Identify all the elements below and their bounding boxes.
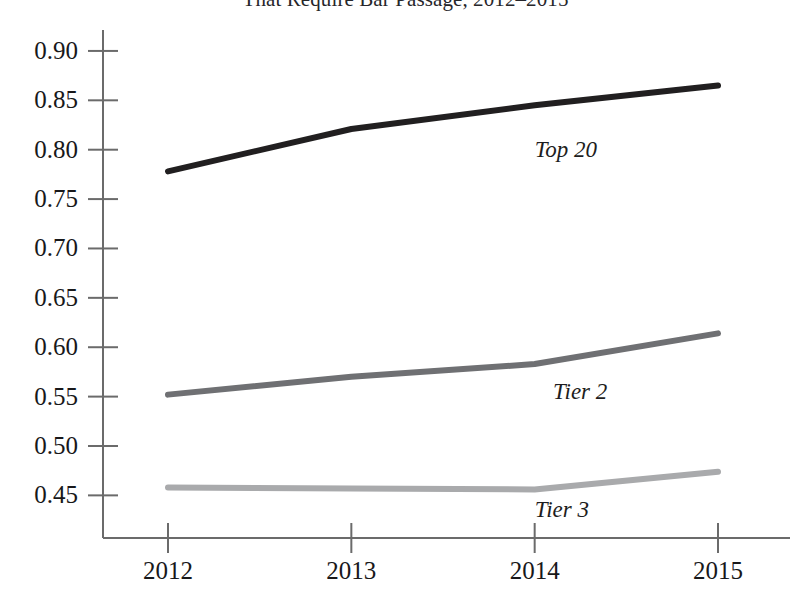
axis-lines [103, 30, 790, 538]
x-tick-label-1: 2013 [296, 558, 406, 583]
plot-svg [0, 0, 811, 603]
line-chart: That Require Bar Passage, 2012–2015 0.45… [0, 0, 811, 603]
series-lines [168, 86, 718, 490]
series-label-tier-2: Tier 2 [553, 380, 607, 403]
series-label-top-20: Top 20 [535, 138, 597, 161]
y-tick-label-1: 0.50 [4, 433, 78, 458]
series-line-2 [168, 472, 718, 490]
y-tick-label-5: 0.70 [4, 235, 78, 260]
y-tick-label-2: 0.55 [4, 384, 78, 409]
y-tick-label-3: 0.60 [4, 334, 78, 359]
y-tick-label-8: 0.85 [4, 87, 78, 112]
y-tick-label-6: 0.75 [4, 186, 78, 211]
plot-area: 0.450.500.550.600.650.700.750.800.850.90… [0, 0, 811, 603]
y-tick-label-9: 0.90 [4, 38, 78, 63]
x-tick-label-3: 2015 [663, 558, 773, 583]
series-line-1 [168, 333, 718, 394]
x-tick-label-2: 2014 [480, 558, 590, 583]
y-tick-label-0: 0.45 [4, 482, 78, 507]
axis-ticks [88, 51, 718, 553]
x-tick-label-0: 2012 [113, 558, 223, 583]
y-tick-label-4: 0.65 [4, 285, 78, 310]
series-line-0 [168, 86, 718, 172]
y-tick-label-7: 0.80 [4, 137, 78, 162]
series-label-tier-3: Tier 3 [535, 498, 589, 521]
